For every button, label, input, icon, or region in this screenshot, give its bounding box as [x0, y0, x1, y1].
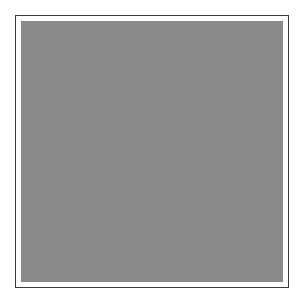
noise-field — [21, 21, 283, 282]
plate-border — [15, 15, 289, 288]
inner-white-gap — [16, 16, 288, 287]
figure-plate — [0, 0, 304, 303]
noise-base-tint — [21, 21, 283, 282]
